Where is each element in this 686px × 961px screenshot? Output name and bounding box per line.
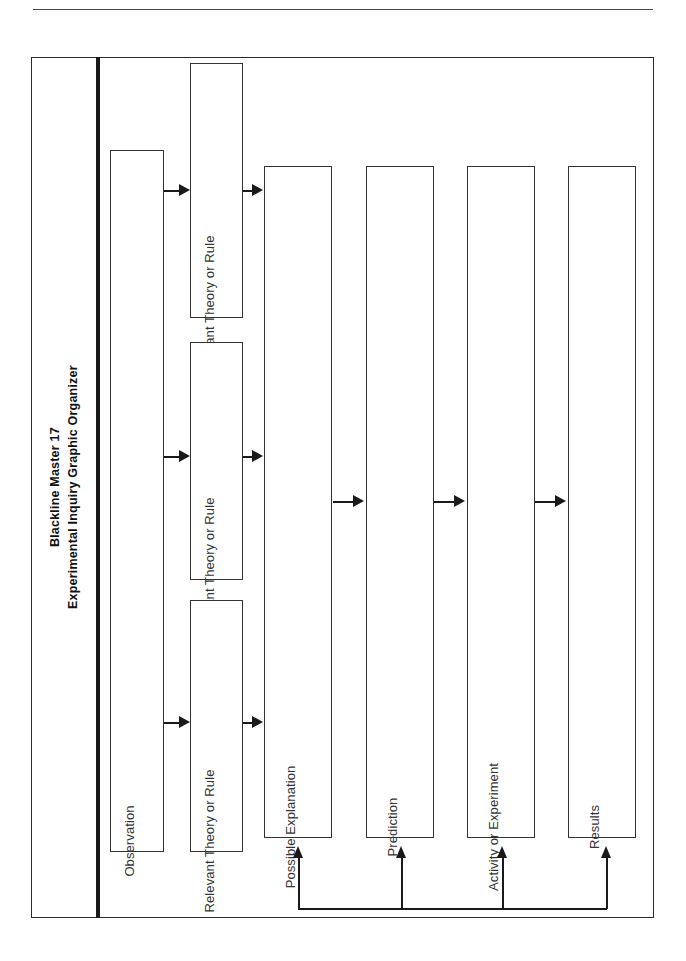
arrowhead-observation-to-theory-1 — [179, 184, 190, 196]
box-relevant-theory-1[interactable]: Relevant Theory or Rule — [190, 63, 243, 318]
arrowhead-theory-3-to-explanation — [252, 716, 263, 728]
arrowhead-explanation-to-prediction — [353, 495, 364, 507]
box-prediction[interactable]: Prediction — [366, 166, 434, 838]
feedback-riser-to-activity — [502, 858, 504, 909]
connector-observation-to-theory-3 — [164, 722, 180, 724]
page-title-line-1: Blackline Master 17 — [45, 366, 63, 610]
arrowhead-theory-1-to-explanation — [252, 184, 263, 196]
box-activity-or-experiment[interactable]: Activity or Experiment — [467, 166, 535, 838]
title-band: Blackline Master 17 Experimental Inquiry… — [31, 57, 96, 918]
box-possible-explanation[interactable]: Possible Explanation — [264, 166, 332, 838]
box-results[interactable]: Results — [568, 166, 636, 838]
connector-observation-to-theory-2 — [164, 456, 180, 458]
box-relevant-theory-3-label: Relevant Theory or Rule — [202, 770, 217, 913]
worksheet-page: Blackline Master 17 Experimental Inquiry… — [0, 0, 686, 961]
box-observation[interactable]: Observation — [110, 150, 164, 852]
arrowhead-observation-to-theory-2 — [179, 450, 190, 462]
feedback-riser-to-results — [606, 858, 608, 909]
top-divider-rule — [33, 9, 653, 10]
feedback-riser-to-explanation — [298, 858, 300, 909]
arrowhead-feedback-to-explanation — [293, 846, 303, 858]
box-possible-explanation-label: Possible Explanation — [283, 766, 298, 889]
box-relevant-theory-2[interactable]: Relevant Theory or Rule — [190, 342, 243, 580]
box-observation-label: Observation — [122, 805, 137, 876]
connector-activity-to-results — [535, 501, 556, 503]
arrowhead-prediction-to-activity — [454, 495, 465, 507]
connector-prediction-to-activity — [434, 501, 455, 503]
arrowhead-activity-to-results — [555, 495, 566, 507]
box-relevant-theory-3[interactable]: Relevant Theory or Rule — [190, 600, 243, 852]
feedback-riser-to-prediction — [401, 858, 403, 909]
arrowhead-feedback-to-results — [601, 846, 611, 858]
connector-explanation-to-prediction — [333, 501, 354, 503]
arrowhead-observation-to-theory-3 — [179, 716, 190, 728]
box-activity-or-experiment-label: Activity or Experiment — [486, 763, 501, 891]
arrowhead-feedback-to-activity — [497, 846, 507, 858]
connector-observation-to-theory-1 — [164, 190, 180, 192]
title-divider-rule — [96, 57, 100, 918]
feedback-loop-bus — [298, 908, 607, 910]
box-results-label: Results — [587, 805, 602, 849]
page-title: Blackline Master 17 Experimental Inquiry… — [45, 366, 81, 610]
page-title-line-2: Experimental Inquiry Graphic Organizer — [64, 366, 82, 610]
arrowhead-theory-2-to-explanation — [252, 450, 263, 462]
arrowhead-feedback-to-prediction — [396, 846, 406, 858]
